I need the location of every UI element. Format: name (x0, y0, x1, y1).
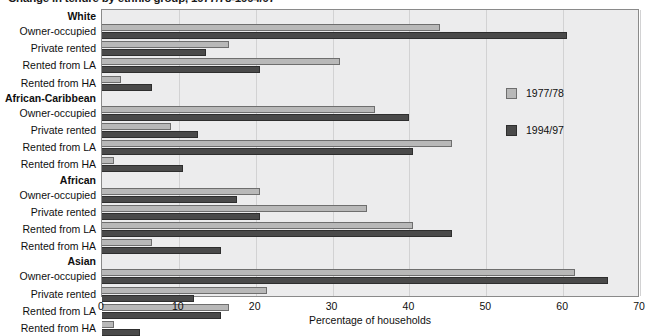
row-label: Rented from HA (0, 159, 96, 170)
group-header-row: Asian (0, 255, 647, 268)
bar-1994-97 (102, 49, 206, 56)
bar-1977-78 (102, 58, 340, 65)
row-label: Private rented (0, 289, 96, 300)
bar-1994-97 (102, 329, 140, 336)
row-bars (102, 187, 640, 204)
bar-1977-78 (102, 239, 152, 246)
row-label: Owner-occupied (0, 271, 96, 282)
row-label: Private rented (0, 125, 96, 136)
x-tick-10: 10 (172, 300, 184, 312)
group-label-asian: Asian (0, 256, 96, 267)
bar-1977-78 (102, 269, 575, 276)
row-bars (102, 23, 640, 40)
row-label: Rented from LA (0, 224, 96, 235)
row-bars (102, 221, 640, 238)
x-axis-label: Percentage of households (101, 314, 639, 326)
bar-1977-78 (102, 287, 267, 294)
table-row: Private rented (0, 40, 647, 57)
chart-legend: 1977/781994/97 (506, 86, 626, 160)
group-header-row: African (0, 174, 647, 187)
bar-1977-78 (102, 106, 375, 113)
x-tick-30: 30 (326, 300, 338, 312)
bar-1977-78 (102, 222, 413, 229)
group-label-african: African (0, 175, 96, 186)
table-row: Private rented (0, 204, 647, 221)
row-bars (102, 268, 640, 285)
legend-item-199497: 1994/97 (506, 123, 626, 137)
bar-1994-97 (102, 66, 260, 73)
bar-1994-97 (102, 32, 567, 39)
row-label: Owner-occupied (0, 26, 96, 37)
legend-swatch-icon (506, 125, 517, 136)
row-label: Rented from HA (0, 241, 96, 252)
bar-1977-78 (102, 41, 229, 48)
table-row: Owner-occupied (0, 187, 647, 204)
x-tick-40: 40 (403, 300, 415, 312)
row-label: Owner-occupied (0, 108, 96, 119)
legend-label: 1977/78 (526, 87, 564, 99)
bar-1977-78 (102, 157, 114, 164)
x-tick-60: 60 (556, 300, 568, 312)
bar-1994-97 (102, 277, 608, 284)
group-label-african-caribbean: African-Caribbean (0, 93, 96, 104)
legend-item-197778: 1977/78 (506, 86, 626, 100)
x-tick-70: 70 (633, 300, 645, 312)
row-bars (102, 204, 640, 221)
row-label: Rented from LA (0, 306, 96, 317)
bar-1994-97 (102, 148, 413, 155)
bar-1994-97 (102, 196, 237, 203)
row-label: Private rented (0, 207, 96, 218)
bar-1994-97 (102, 213, 260, 220)
group-label-white: White (0, 11, 96, 22)
legend-swatch-icon (506, 88, 517, 99)
table-row: Rented from LA (0, 57, 647, 74)
x-tick-50: 50 (479, 300, 491, 312)
bar-1994-97 (102, 84, 152, 91)
bar-1977-78 (102, 205, 367, 212)
bar-1977-78 (102, 188, 260, 195)
x-tick-0: 0 (98, 300, 104, 312)
bar-1994-97 (102, 114, 409, 121)
bar-1977-78 (102, 140, 452, 147)
chart-title: Change in tenure by ethnic group, 1977/7… (8, 0, 428, 6)
table-row: Rented from LA (0, 221, 647, 238)
row-label: Rented from HA (0, 323, 96, 334)
bar-1994-97 (102, 165, 183, 172)
row-label: Rented from LA (0, 142, 96, 153)
row-bars (102, 238, 640, 255)
x-tick-20: 20 (249, 300, 261, 312)
bar-1977-78 (102, 123, 171, 130)
group-header-row: White (0, 10, 647, 23)
row-bars (102, 57, 640, 74)
legend-label: 1994/97 (526, 124, 564, 136)
table-row: Rented from HA (0, 238, 647, 255)
table-row: Owner-occupied (0, 268, 647, 285)
table-row: Owner-occupied (0, 23, 647, 40)
bar-1994-97 (102, 247, 221, 254)
row-bars (102, 40, 640, 57)
chart-figure: Change in tenure by ethnic group, 1977/7… (0, 0, 647, 336)
row-label: Rented from HA (0, 78, 96, 89)
row-label: Rented from LA (0, 60, 96, 71)
row-label: Private rented (0, 43, 96, 54)
bar-1994-97 (102, 230, 452, 237)
row-label: Owner-occupied (0, 190, 96, 201)
bar-1994-97 (102, 131, 198, 138)
bar-1977-78 (102, 24, 440, 31)
bar-1977-78 (102, 76, 121, 83)
